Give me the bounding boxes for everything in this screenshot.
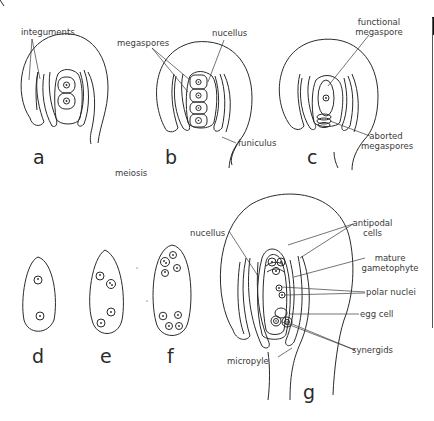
label-egg-cell: egg cell — [360, 309, 393, 319]
label-polar-nuclei: polar nuclei — [366, 287, 416, 297]
embryo-sac-stage-d — [23, 257, 56, 331]
label-functional-megaspore-line2: megaspore — [354, 27, 404, 37]
embryo-sac-stage-f — [153, 245, 191, 336]
label-functional-megaspore-line1: functional — [354, 17, 404, 27]
ovule-development-diagram — [0, 0, 434, 421]
label-synergids: synergids — [352, 345, 393, 355]
label-aborted-megaspores-line2: megaspores — [361, 141, 411, 151]
label-meiosis: meiosis — [115, 168, 147, 178]
label-micropyle: micropyle — [227, 356, 269, 366]
stage-letter-a: a — [33, 147, 45, 167]
label-megaspores: megaspores — [117, 38, 169, 48]
label-nucellus-g: nucellus — [190, 228, 225, 238]
label-mature-gametophyte-line2: gametophyte — [358, 263, 422, 273]
stage-letter-g: g — [303, 382, 315, 402]
label-funiculus: funiculus — [238, 138, 276, 148]
stage-letter-b: b — [165, 147, 177, 167]
label-antipodal-cells-line1: antipodal — [350, 218, 395, 228]
stage-letter-d: d — [32, 346, 44, 366]
corner-mark — [0, 0, 4, 6]
mature-ovule-stage-g — [220, 194, 365, 400]
label-nucellus-b: nucellus — [212, 28, 247, 38]
label-antipodal-cells-line2: cells — [350, 228, 395, 238]
stage-letter-c: c — [307, 147, 317, 167]
stage-letter-e: e — [100, 346, 112, 366]
embryo-sac-stage-e — [90, 250, 148, 334]
stage-letter-f: f — [167, 346, 174, 366]
label-integuments: integuments — [21, 27, 75, 37]
label-mature-gametophyte-line1: mature — [365, 253, 415, 263]
ovule-stage-a — [21, 34, 108, 144]
label-aborted-megaspores-line1: aborted — [361, 131, 411, 141]
